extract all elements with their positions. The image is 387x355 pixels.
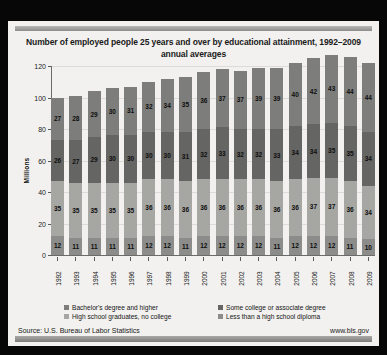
- bar-segment: 36: [344, 181, 357, 238]
- x-tick-label: 1997: [146, 264, 153, 294]
- bar-segment: 32: [197, 129, 210, 179]
- stacked-bar[interactable]: 35313611: [179, 77, 192, 255]
- y-tick-label: 40: [20, 189, 46, 196]
- bar-segment: 34: [161, 79, 174, 133]
- x-tick-mark: [112, 257, 113, 261]
- x-tick-mark: [75, 257, 76, 261]
- x-tick-label: 2004: [274, 264, 281, 294]
- stacked-bar[interactable]: 39323612: [252, 68, 265, 255]
- bar-segment: 35: [88, 183, 101, 238]
- bar-segment: 35: [124, 183, 137, 238]
- bar-segment: 39: [252, 68, 265, 129]
- x-tick: 1992: [51, 257, 64, 297]
- bar-segment: 36: [179, 181, 192, 238]
- x-tick-mark: [185, 257, 186, 261]
- bar-segment: 12: [289, 236, 302, 255]
- bar-segment: 12: [216, 236, 229, 255]
- legend-label: Some college or associate degree: [226, 304, 326, 311]
- bar-segment: 33: [270, 129, 283, 181]
- legend-label: Bachelor's degree and higher: [72, 304, 158, 311]
- x-tick-label: 2006: [310, 264, 317, 294]
- bar-segment: 44: [344, 57, 357, 126]
- bar-segment: 12: [307, 236, 320, 255]
- bar-segment: 36: [216, 179, 229, 236]
- x-tick-mark: [276, 257, 277, 261]
- x-tick-mark: [331, 257, 332, 261]
- x-tick: 2003: [252, 257, 265, 297]
- stacked-bar[interactable]: 44353611: [344, 57, 357, 255]
- x-tick-mark: [295, 257, 296, 261]
- x-tick-label: 2008: [347, 264, 354, 294]
- stacked-bar[interactable]: 34303612: [161, 79, 174, 255]
- stacked-bar[interactable]: 42343712: [307, 58, 320, 255]
- legend-swatch-icon: [64, 305, 69, 310]
- bar-segment: 35: [179, 77, 192, 132]
- bar-segment: 34: [362, 186, 375, 240]
- stacked-bar[interactable]: 39333611: [270, 68, 283, 255]
- legend-swatch-icon: [218, 305, 223, 310]
- stacked-bar[interactable]: 37333612: [216, 69, 229, 255]
- bar-segment: 37: [307, 178, 320, 236]
- bar-segment: 34: [362, 132, 375, 186]
- bar-segment: 35: [51, 181, 64, 236]
- x-tick-label: 2002: [237, 264, 244, 294]
- bar-segment: 36: [289, 179, 302, 236]
- chart-legend: Bachelor's degree and higherSome college…: [64, 304, 364, 320]
- x-tick-mark: [203, 257, 204, 261]
- stacked-bar[interactable]: 30303511: [106, 88, 119, 255]
- x-tick-label: 2000: [201, 264, 208, 294]
- bar-segment: 12: [252, 236, 265, 255]
- bar-segment: 36: [234, 179, 247, 236]
- bar-segment: 26: [51, 140, 64, 181]
- stacked-bar[interactable]: 43353712: [325, 55, 338, 255]
- x-tick-label: 1992: [55, 264, 62, 294]
- x-tick: 2007: [325, 257, 338, 297]
- stacked-bar[interactable]: 36323612: [197, 72, 210, 255]
- website-url[interactable]: www.bls.gov: [330, 327, 369, 334]
- bar-segment: 37: [234, 71, 247, 129]
- bar-segment: 10: [362, 239, 375, 255]
- bar-segment: 35: [69, 183, 82, 238]
- bar-segment: 30: [106, 135, 119, 182]
- stacked-bar[interactable]: 40343612: [289, 63, 302, 255]
- stacked-bar[interactable]: 37323612: [234, 71, 247, 255]
- bar-segment: 12: [142, 236, 155, 255]
- stacked-bar[interactable]: 44343410: [362, 63, 375, 255]
- x-tick: 1997: [142, 257, 155, 297]
- bar-segment: 31: [179, 132, 192, 181]
- x-tick: 2001: [216, 257, 229, 297]
- bar-segment: 29: [88, 91, 101, 137]
- x-tick: 2005: [289, 257, 302, 297]
- x-tick-label: 2001: [219, 264, 226, 294]
- x-tick-mark: [240, 257, 241, 261]
- stacked-bar[interactable]: 28273511: [69, 96, 82, 255]
- bar-segment: 43: [325, 55, 338, 123]
- bar-segment: 35: [344, 126, 357, 181]
- x-tick-label: 1994: [91, 264, 98, 294]
- footer: Source: U.S. Bureau of Labor Statistics …: [18, 327, 369, 334]
- plot-area: Millions 020406080100120 272635122827351…: [8, 63, 379, 298]
- bar-segment: 30: [142, 132, 155, 179]
- stacked-bar[interactable]: 32303612: [142, 82, 155, 255]
- bar-segment: 42: [307, 58, 320, 124]
- stacked-bar[interactable]: 29293511: [88, 91, 101, 255]
- x-tick: 2008: [344, 257, 357, 297]
- bar-segment: 11: [179, 238, 192, 255]
- x-tick-mark: [222, 257, 223, 261]
- bar-segment: 32: [234, 129, 247, 179]
- x-tick-label: 1995: [109, 264, 116, 294]
- x-tick-mark: [350, 257, 351, 261]
- legend-item[interactable]: Some college or associate degree: [218, 304, 364, 311]
- stacked-bar[interactable]: 27263512: [51, 98, 64, 255]
- x-tick-label: 2005: [292, 264, 299, 294]
- legend-item[interactable]: Bachelor's degree and higher: [64, 304, 210, 311]
- stacked-bar[interactable]: 31303511: [124, 87, 137, 256]
- bar-segment: 40: [289, 63, 302, 126]
- bar-segment: 34: [289, 126, 302, 180]
- bar-segment: 35: [106, 183, 119, 238]
- x-tick-label: 2007: [329, 264, 336, 294]
- y-tick-label: 100: [20, 94, 46, 101]
- legend-item[interactable]: Less than a high school diploma: [218, 313, 364, 320]
- x-axis-ticks: 1992199319941995199619971998199920002001…: [51, 257, 375, 297]
- legend-item[interactable]: High school graduates, no college: [64, 313, 210, 320]
